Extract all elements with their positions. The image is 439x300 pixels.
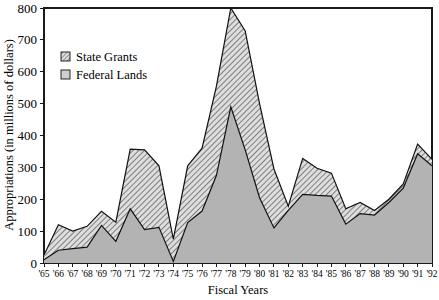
x-axis-tick-label: '80	[254, 269, 265, 279]
x-axis-tick-label: '86	[340, 269, 351, 279]
x-axis-tick-label: '87	[355, 269, 366, 279]
legend-swatch-state-grants	[61, 52, 70, 61]
x-axis-tick-label: '89	[383, 269, 394, 279]
y-axis-tick-label: 800	[18, 1, 38, 16]
x-axis-tick-label: '67	[67, 269, 78, 279]
y-axis-tick-label: 600	[18, 64, 38, 79]
x-axis-tick-label: '69	[96, 269, 107, 279]
x-axis-title: Fiscal Years	[208, 283, 269, 297]
x-axis-tick-label: '90	[398, 269, 409, 279]
x-axis-tick-label: '68	[82, 269, 93, 279]
x-axis-tick-label: '79	[240, 269, 251, 279]
x-axis-tick-label: '92	[426, 269, 437, 279]
legend-label-state-grants: State Grants	[76, 50, 138, 64]
x-axis-tick-label: '83	[297, 269, 308, 279]
chart-figure: 0100200300400500600700800 '65'66'67'68'6…	[0, 0, 439, 300]
legend-label-federal-lands: Federal Lands	[76, 68, 147, 82]
x-axis-tick-label: '77	[211, 269, 222, 279]
x-axis-tick-label: '84	[311, 269, 322, 279]
x-axis-tick-label: '70	[110, 269, 121, 279]
x-axis-tick-label: '73	[153, 269, 164, 279]
x-axis-tick-label: '82	[283, 269, 294, 279]
y-axis-tick-label: 100	[18, 224, 38, 239]
x-axis-tick-label: '72	[139, 269, 150, 279]
x-axis-tick-label: '66	[53, 269, 64, 279]
y-axis-tick-label: 500	[18, 96, 38, 111]
x-axis-tick-label: '65	[38, 269, 49, 279]
x-axis-tick-label: '71	[125, 269, 136, 279]
x-axis-tick-label: '81	[268, 269, 279, 279]
x-axis-tick-label: '85	[326, 269, 337, 279]
y-axis-tick-label: 200	[18, 192, 38, 207]
appropriations-stacked-area-chart: 0100200300400500600700800 '65'66'67'68'6…	[0, 0, 439, 300]
x-axis-tick-label: '88	[369, 269, 380, 279]
y-axis-tick-label: 400	[18, 128, 38, 143]
y-axis-tick-label: 700	[18, 32, 38, 47]
x-axis-tick-label: '91	[412, 269, 423, 279]
x-axis-tick-label: '78	[225, 269, 236, 279]
y-axis-tick-label: 300	[18, 160, 38, 175]
legend-swatch-federal-lands	[61, 70, 70, 79]
x-axis-tick-label: '76	[196, 269, 207, 279]
x-axis-tick-label: '75	[182, 269, 193, 279]
x-axis-tick-label: '74	[168, 269, 179, 279]
y-axis-title: Appropriations (in millions of dollars)	[2, 39, 16, 231]
y-axis-tick-label: 0	[31, 256, 38, 271]
